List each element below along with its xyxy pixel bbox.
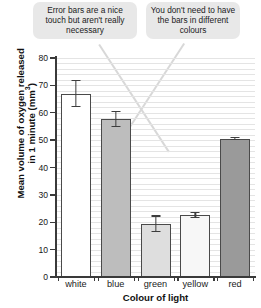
y-axis-title: Mean volume of oxygen released in 1 minu… [15,35,38,211]
y-axis-title-line2: in 1 minute (mm [26,90,37,164]
y-tick-label: 10 [4,245,48,255]
error-bar-cap-lower [71,106,80,107]
y-tick [50,194,56,195]
x-axis-line [55,276,256,278]
y-tick [50,57,56,58]
error-bar-cap-upper [111,111,120,112]
error-bar-blue [111,111,121,127]
figure: Error bars are a nice touch but aren't r… [0,0,261,308]
y-tick-label: 20 [4,217,48,227]
x-category-label-white: white [56,279,96,289]
y-tick [50,222,56,223]
error-bar-stem [155,215,156,231]
gridline [56,91,255,92]
gridline [56,69,255,70]
gridline [56,63,255,64]
x-category-label-green: green [136,279,176,289]
x-axis-title: Colour of light [56,292,255,303]
error-bar-cap-lower [191,217,200,218]
y-axis-title-paren: ) [26,83,37,86]
bar-blue [101,119,131,277]
error-bar-white [71,80,81,107]
y-tick [50,167,56,168]
error-bar-stem [115,111,116,127]
annotation-callout-bar-colours: You don't need to have the bars in diffe… [146,2,240,39]
bar-white [61,94,91,277]
error-bar-cap-upper [191,212,200,213]
error-bar-cap-upper [71,80,80,81]
error-bar-stem [75,80,76,107]
y-tick-label: 0 [4,272,48,282]
gridline [56,80,255,81]
annotation-callout-error-bars: Error bars are a nice touch but aren't r… [33,2,137,39]
gridline [56,74,255,75]
error-bar-green [151,215,161,231]
x-category-label-blue: blue [96,279,136,289]
y-tick [50,249,56,250]
y-axis-title-line1: Mean volume of oxygen released [15,48,26,198]
x-category-label-red: red [215,279,255,289]
bar-yellow [180,215,210,277]
error-bar-yellow [190,212,200,219]
y-tick [50,85,56,86]
y-axis-title-superscript: 3 [25,86,32,90]
gridline [56,85,255,86]
y-tick [50,276,56,277]
y-tick [50,112,56,113]
gridline [56,58,255,59]
x-category-label-yellow: yellow [175,279,215,289]
plot-area [56,58,255,277]
y-tick [50,139,56,140]
bar-red [220,139,250,277]
error-bar-cap-lower [151,231,160,232]
error-bar-cap-upper [151,215,160,216]
error-bar-red [230,137,240,140]
error-bar-cap-lower [111,126,120,127]
error-bar-cap-lower [231,139,240,140]
